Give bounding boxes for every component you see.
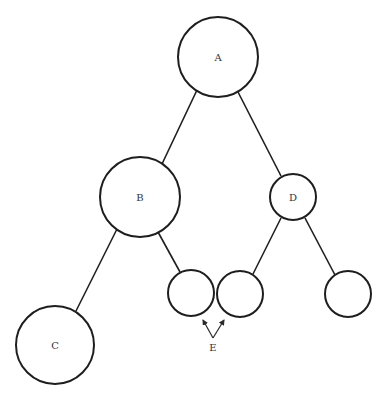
node-label: A	[213, 52, 222, 63]
node-c: C	[16, 306, 94, 384]
node-f	[325, 271, 371, 317]
node-a: A	[178, 17, 258, 97]
arrow-to-e1-icon	[203, 320, 213, 338]
edge-a-b	[162, 90, 197, 164]
node-circle	[217, 271, 263, 317]
edge-b-e1	[158, 232, 180, 272]
node-e2	[217, 271, 263, 317]
node-label: C	[51, 340, 59, 351]
edge-d-e2	[253, 218, 281, 274]
node-label: B	[136, 192, 143, 203]
edge-a-d	[238, 92, 281, 176]
node-e1	[168, 270, 214, 316]
edge-d-f	[305, 218, 335, 275]
node-d: D	[270, 174, 316, 220]
callout-label-e: E	[209, 342, 216, 353]
node-circle	[168, 270, 214, 316]
arrow-to-e2-icon	[213, 320, 224, 338]
nodes: ABDC	[16, 17, 371, 384]
node-circle	[325, 271, 371, 317]
node-b: B	[100, 157, 180, 237]
node-label: D	[289, 192, 297, 203]
edge-b-c	[76, 229, 117, 311]
callout-e: E	[203, 320, 224, 353]
tree-diagram: ABDC E	[0, 0, 384, 404]
